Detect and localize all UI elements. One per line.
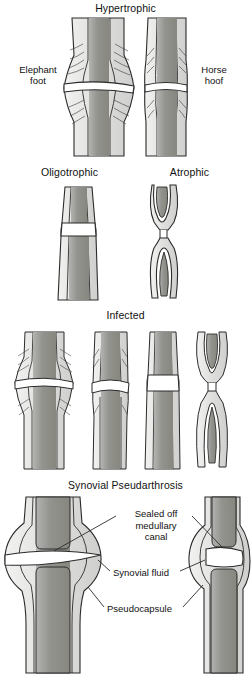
panel-oligotrophic-atrophic: Oligotrophic Atrophic [0, 160, 251, 305]
horse-hoof-bone [145, 18, 188, 156]
nonunion-classification-figure: Hypertrophic Elephant foot Horse hoof [0, 0, 251, 677]
hypertrophic-illustration [0, 0, 251, 160]
fracture-gap [147, 375, 179, 391]
infected-illustration [0, 305, 251, 475]
infected-oblique-bone [92, 332, 129, 469]
infected-oligotrophic-bone [145, 332, 180, 469]
sealed-medullary-canal-upper [36, 497, 70, 549]
infected-atrophic-bone [197, 332, 228, 467]
sealed-medullary-canal-lower [36, 567, 70, 673]
synovial-fluid-space [206, 547, 243, 567]
oligotrophic-atrophic-illustration [0, 160, 251, 305]
synovial-joint-large [5, 497, 101, 673]
synovial-joint-small [189, 497, 250, 673]
sealed-medullary-canal-lower [211, 569, 237, 673]
panel-hypertrophic: Hypertrophic Elephant foot Horse hoof [0, 0, 251, 160]
infected-hypertrophic-bone [15, 332, 73, 469]
atrophic-bone [150, 185, 177, 298]
leader-pseudocapsule-left [88, 587, 104, 607]
elephant-foot-bone [64, 18, 134, 156]
leader-pseudocapsule-right [183, 585, 203, 607]
sealed-medullary-canal-upper [212, 497, 236, 547]
synovial-pseudarthrosis-illustration [0, 475, 251, 677]
oligotrophic-bone [58, 187, 98, 300]
panel-synovial-pseudarthrosis: Synovial Pseudarthrosis Sealed off medul… [0, 475, 251, 677]
panel-infected: Infected [0, 305, 251, 475]
fracture-gap [61, 223, 96, 236]
